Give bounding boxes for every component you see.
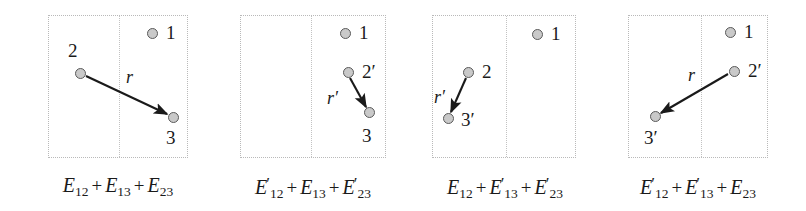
node-1-dot	[725, 27, 736, 38]
plus-operator: +	[671, 177, 682, 198]
caption-expression: E′12+E′13+E23	[640, 175, 756, 201]
energy-subscript: 13	[700, 186, 714, 201]
node-3-prime-dot	[650, 111, 661, 122]
energy-term: E′13	[489, 175, 517, 201]
distance-label-r: r	[688, 66, 695, 84]
energy-term: E′12	[255, 175, 283, 201]
energy-subscript: 13	[504, 186, 518, 201]
node-3-prime-label: 3′	[644, 128, 658, 147]
figure-root: r123r′12′3r′123′r12′3′E12+E13+E23E′12+E1…	[0, 0, 806, 211]
energy-subscript: 12	[655, 186, 669, 201]
energy-symbol: E	[63, 174, 75, 196]
energy-symbol: E	[447, 176, 459, 198]
energy-subscript: 12	[75, 184, 89, 199]
energy-term: E12	[63, 175, 89, 199]
energy-subscript: 23	[550, 186, 564, 201]
energy-term: E′23	[343, 175, 371, 201]
energy-symbol: E	[489, 176, 501, 198]
energy-symbol: E	[300, 176, 312, 198]
energy-term: E13	[105, 175, 131, 199]
energy-subscript: 23	[743, 186, 757, 201]
energy-symbol: E	[105, 174, 117, 196]
caption-expression: E′12+E13+E′23	[255, 175, 371, 201]
energy-subscript: 13	[117, 184, 131, 199]
caption-expression: E12+E13+E23	[63, 175, 174, 199]
energy-symbol: E	[148, 174, 160, 196]
energy-symbol: E	[343, 176, 355, 198]
plus-operator: +	[521, 177, 532, 198]
plus-operator: +	[717, 177, 728, 198]
energy-subscript: 23	[160, 184, 174, 199]
plus-operator: +	[476, 177, 487, 198]
plus-operator: +	[286, 177, 297, 198]
caption-expression: E12+E′13+E′23	[447, 175, 563, 201]
energy-term: E12	[447, 177, 473, 201]
energy-subscript: 13	[312, 186, 326, 201]
energy-term: E13	[300, 177, 326, 201]
energy-term: E23	[148, 175, 174, 199]
node-1-label: 1	[744, 22, 754, 41]
plus-operator: +	[91, 175, 102, 196]
plus-operator: +	[134, 175, 145, 196]
energy-symbol: E	[535, 176, 547, 198]
node-2-prime-label: 2′	[748, 61, 762, 80]
energy-subscript: 12	[270, 186, 284, 201]
energy-term: E′23	[535, 175, 563, 201]
energy-term: E23	[730, 177, 756, 201]
energy-subscript: 23	[358, 186, 372, 201]
plus-operator: +	[329, 177, 340, 198]
energy-term: E′13	[685, 175, 713, 201]
energy-subscript: 12	[459, 186, 473, 201]
node-2-prime-dot	[729, 66, 740, 77]
energy-term: E′12	[640, 175, 668, 201]
energy-symbol: E	[730, 176, 742, 198]
